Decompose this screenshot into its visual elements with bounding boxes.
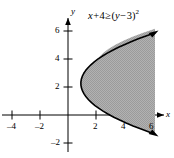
x-axis-arrowhead	[157, 112, 164, 118]
equation-minus-sign: −	[120, 10, 127, 21]
y-axis-label: y	[71, 7, 75, 16]
inequality-annotation: x+4≥(y−3)2	[88, 9, 139, 21]
x-tick-label--2: –2	[35, 122, 44, 131]
x-tick-label-2: 2	[93, 122, 98, 131]
equation-plus-sign: +	[93, 10, 100, 21]
y-axis-arrowhead	[65, 18, 71, 25]
x-tick-label-4: 4	[121, 122, 126, 131]
coordinate-plane-svg	[0, 0, 174, 158]
x-axis-label: x	[166, 110, 170, 119]
y-tick-label-2: 2	[55, 82, 60, 91]
x-tick-label--4: –4	[7, 122, 16, 131]
y-tick-label-4: 4	[55, 54, 60, 63]
y-tick-label--2: –2	[51, 138, 60, 147]
y-tick-label-6: 6	[55, 26, 60, 35]
equation-relation-sign: ≥	[105, 10, 112, 21]
x-tick-label-6: 6	[149, 122, 154, 131]
graph-figure: –4 –2 2 4 6 6 4 2 –2 x y x+4≥(y−3)2	[0, 0, 174, 158]
equation-exponent: 2	[135, 8, 139, 16]
equation-lhs-variable: x	[88, 10, 93, 21]
